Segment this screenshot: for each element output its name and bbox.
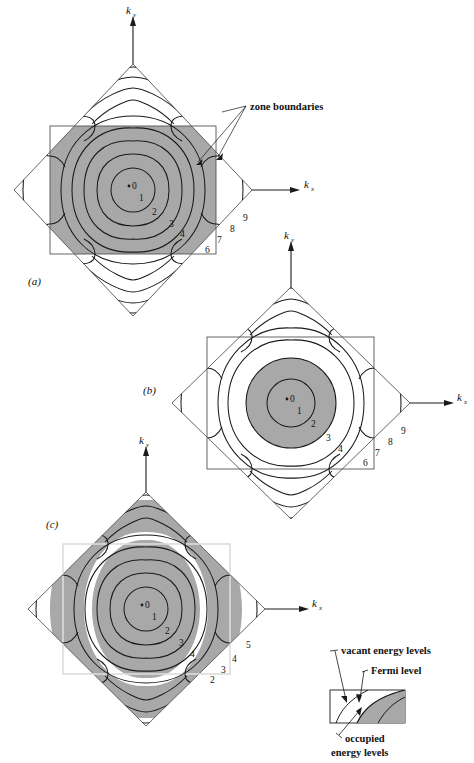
panel-c-kx-arrowhead [299,606,309,612]
panel-c-contour-label-2: 2 [165,626,170,636]
panel-c-contour-label-1: 1 [152,612,157,622]
panel-b-contour-label-8: 8 [388,437,393,447]
panel-b-contour-label-1: 1 [297,406,302,416]
panel-c-kx-label: k [312,597,318,609]
panel-a-kx-arrowhead [290,187,300,193]
legend: vacant energy levels Fermi level occupie… [330,645,431,758]
panel-b-kx-label: k [457,391,463,403]
panel-c-outer-label-5: 5 [246,640,251,650]
panel-b-contour-label-3: 3 [326,433,331,443]
zone-boundaries-label: zone boundaries [250,101,323,112]
panel-c-letter: (c) [46,518,59,531]
panel-a-ky-sublabel: y [132,11,137,19]
panel-c-outer-label-4: 4 [232,654,237,664]
panel-a-kx-sublabel: x [310,185,315,193]
panel-b-contour-label-9: 9 [401,426,406,436]
figure-svg: k y k x 0 1 2 3 4 6 7 8 9 (a) zone bound… [0,0,474,763]
panel-b-contour-label-7: 7 [375,448,380,458]
panel-a-contour-label-3: 3 [169,219,174,229]
panel-b-origin-label: 0 [290,394,295,404]
panel-c-contour-label-3: 3 [179,638,184,648]
panel-b-kx-sublabel: x [463,398,468,406]
panel-b-contour-label-6: 6 [363,458,368,468]
panel-b-contour-label-4: 4 [338,444,343,454]
panel-b-ky-label: k [284,229,290,241]
legend-occupied-label-line2: energy levels [331,747,388,758]
panel-a-origin-label: 0 [132,181,137,191]
panel-c-origin-label: 0 [145,600,150,610]
panel-a-contour-label-4: 4 [180,229,185,239]
legend-fermi-label: Fermi level [371,665,422,676]
panel-a-contour-label-7: 7 [217,235,222,245]
panel-a-letter: (a) [28,275,41,288]
panel-c-origin-dot [141,604,144,607]
panel-a-contour-label-6: 6 [205,245,210,255]
panel-c-outer-label-3: 3 [221,665,226,675]
panel-c-kx-sublabel: x [318,604,323,612]
panel-a: k y k x 0 1 2 3 4 6 7 8 9 (a) [0,4,315,316]
panel-b: k y k x 0 1 2 3 4 6 7 8 9 (b) [143,229,468,519]
panel-b-ky-sublabel: y [290,236,295,244]
panel-c-contour-label-4: 4 [190,649,195,659]
panel-b-kx-arrowhead [444,400,454,406]
panel-c-ky-sublabel: y [145,441,150,449]
panel-c-ky-label: k [139,434,145,446]
panel-b-contour-label-2: 2 [311,419,316,429]
panel-a-ky-label: k [126,4,132,16]
panel-b-letter: (b) [143,384,156,397]
panel-a-contour-label-2: 2 [152,207,157,217]
panel-a-contour-label-9: 9 [243,213,248,223]
panel-a-kx-label: k [304,178,310,190]
panel-a-contour-label-1: 1 [139,193,144,203]
figure-root: k y k x 0 1 2 3 4 6 7 8 9 (a) zone bound… [0,0,474,763]
panel-a-origin-dot [128,185,131,188]
panel-c-outer-label-2: 2 [210,675,215,685]
legend-vacant-label: vacant energy levels [341,645,431,656]
panel-b-origin-dot [286,398,289,401]
legend-occupied-label-line1: occupied [345,733,385,744]
panel-a-contour-label-8: 8 [230,224,235,234]
